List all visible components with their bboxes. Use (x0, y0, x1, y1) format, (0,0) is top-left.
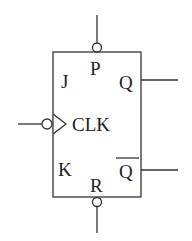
j-label: J (61, 71, 68, 92)
reset-label: R (90, 175, 103, 196)
q-label: Q (119, 72, 133, 93)
clk-edge-triangle (53, 114, 66, 134)
q-bar-label: Q (119, 161, 133, 182)
preset-inversion-bubble (93, 43, 102, 52)
preset-label: P (90, 58, 101, 79)
jk-flip-flop-diagram: J P Q CLK K Q R (0, 0, 192, 241)
clk-inversion-bubble (42, 119, 52, 129)
reset-inversion-bubble (93, 198, 102, 207)
k-label: K (58, 159, 72, 180)
clk-label: CLK (72, 114, 110, 135)
